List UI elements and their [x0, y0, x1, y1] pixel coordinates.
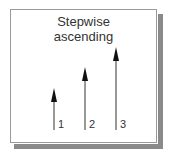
- arrow-up-icon: [51, 88, 57, 102]
- arrow-1: [51, 88, 57, 130]
- arrow-3-label: 3: [120, 119, 126, 130]
- arrow-up-icon: [113, 47, 119, 61]
- arrow-2-label: 2: [89, 119, 95, 130]
- arrow-up-icon: [82, 67, 88, 81]
- arrow-1-label: 1: [58, 119, 64, 130]
- arrow-3: [113, 47, 119, 130]
- arrow-2: [82, 67, 88, 130]
- arrows-canvas: [0, 0, 170, 157]
